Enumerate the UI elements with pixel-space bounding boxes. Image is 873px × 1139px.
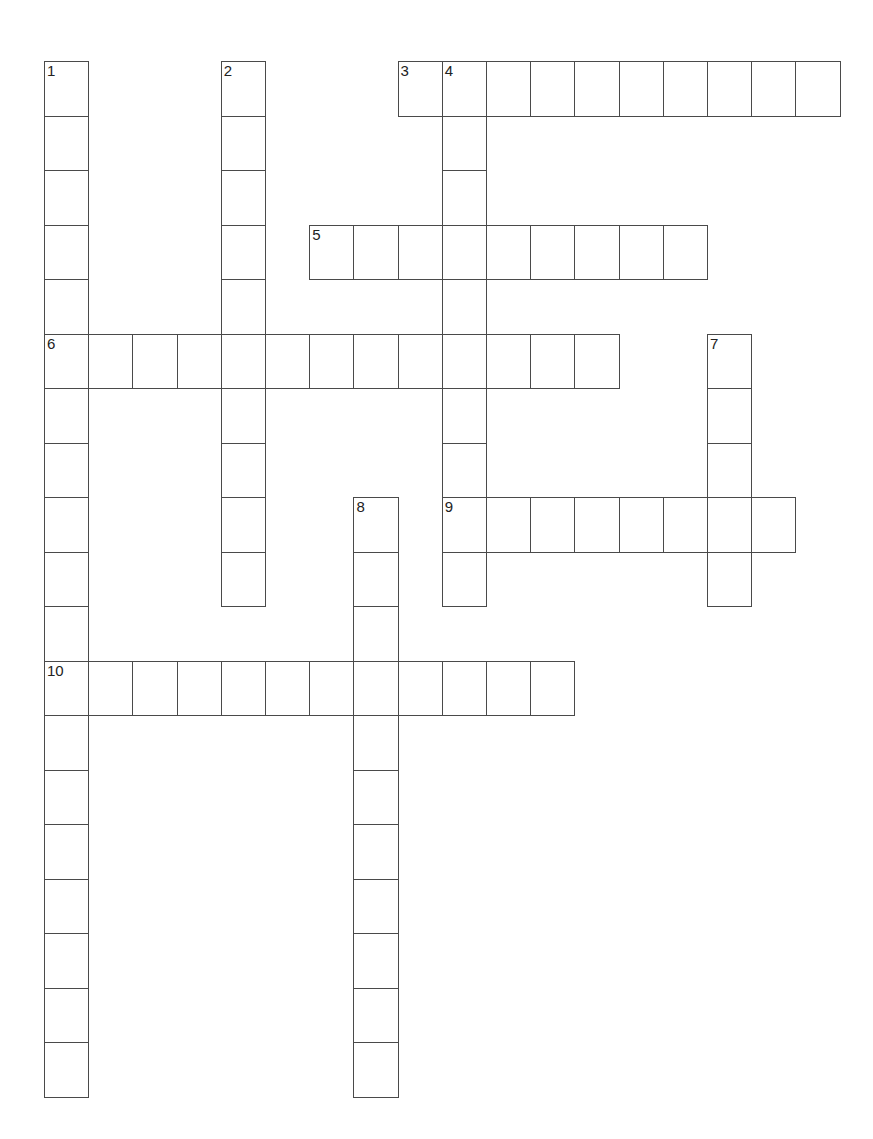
cell-letter-input[interactable] bbox=[45, 934, 88, 988]
cell-letter-input[interactable] bbox=[45, 389, 88, 443]
cell-letter-input[interactable] bbox=[575, 62, 618, 116]
cell-letter-input[interactable] bbox=[620, 226, 663, 280]
cell-letter-input[interactable] bbox=[45, 226, 88, 280]
crossword-cell[interactable] bbox=[574, 225, 619, 281]
crossword-cell[interactable] bbox=[442, 552, 487, 608]
crossword-cell[interactable] bbox=[619, 225, 664, 281]
crossword-cell[interactable] bbox=[353, 334, 398, 390]
crossword-cell[interactable] bbox=[442, 661, 487, 717]
cell-letter-input[interactable] bbox=[45, 498, 88, 552]
cell-letter-input[interactable] bbox=[178, 335, 221, 389]
crossword-cell[interactable] bbox=[353, 824, 398, 880]
crossword-cell[interactable] bbox=[353, 606, 398, 662]
crossword-cell[interactable]: 8 bbox=[353, 497, 398, 553]
cell-letter-input[interactable] bbox=[45, 1043, 88, 1097]
cell-letter-input[interactable] bbox=[399, 662, 442, 716]
cell-letter-input[interactable] bbox=[45, 553, 88, 607]
crossword-cell[interactable]: 7 bbox=[707, 334, 752, 390]
cell-letter-input[interactable] bbox=[399, 226, 442, 280]
cell-letter-input[interactable] bbox=[443, 444, 486, 498]
crossword-cell[interactable] bbox=[353, 1042, 398, 1098]
crossword-cell[interactable] bbox=[221, 279, 266, 335]
cell-letter-input[interactable] bbox=[45, 62, 88, 116]
crossword-cell[interactable] bbox=[619, 61, 664, 117]
crossword-cell[interactable] bbox=[619, 497, 664, 553]
crossword-cell[interactable] bbox=[44, 225, 89, 281]
cell-letter-input[interactable] bbox=[487, 498, 530, 552]
crossword-cell[interactable] bbox=[44, 1042, 89, 1098]
crossword-cell[interactable]: 3 bbox=[398, 61, 443, 117]
crossword-cell[interactable] bbox=[221, 552, 266, 608]
cell-letter-input[interactable] bbox=[222, 498, 265, 552]
cell-letter-input[interactable] bbox=[443, 553, 486, 607]
crossword-cell[interactable] bbox=[707, 552, 752, 608]
cell-letter-input[interactable] bbox=[575, 498, 618, 552]
cell-letter-input[interactable] bbox=[45, 607, 88, 661]
cell-letter-input[interactable] bbox=[487, 62, 530, 116]
cell-letter-input[interactable] bbox=[354, 1043, 397, 1097]
crossword-cell[interactable] bbox=[44, 824, 89, 880]
cell-letter-input[interactable] bbox=[399, 335, 442, 389]
cell-letter-input[interactable] bbox=[664, 498, 707, 552]
cell-letter-input[interactable] bbox=[575, 226, 618, 280]
cell-letter-input[interactable] bbox=[133, 335, 176, 389]
cell-letter-input[interactable] bbox=[222, 553, 265, 607]
cell-letter-input[interactable] bbox=[354, 989, 397, 1043]
crossword-cell[interactable] bbox=[795, 61, 840, 117]
crossword-cell[interactable]: 6 bbox=[44, 334, 89, 390]
crossword-cell[interactable] bbox=[530, 497, 575, 553]
cell-letter-input[interactable] bbox=[708, 62, 751, 116]
cell-letter-input[interactable] bbox=[443, 662, 486, 716]
crossword-cell[interactable] bbox=[44, 988, 89, 1044]
crossword-cell[interactable] bbox=[707, 443, 752, 499]
crossword-cell[interactable] bbox=[177, 334, 222, 390]
cell-letter-input[interactable] bbox=[45, 771, 88, 825]
crossword-cell[interactable] bbox=[663, 225, 708, 281]
crossword-cell[interactable] bbox=[398, 225, 443, 281]
crossword-cell[interactable] bbox=[44, 443, 89, 499]
crossword-cell[interactable] bbox=[530, 61, 575, 117]
crossword-cell[interactable] bbox=[221, 661, 266, 717]
cell-letter-input[interactable] bbox=[310, 335, 353, 389]
cell-letter-input[interactable] bbox=[45, 989, 88, 1043]
crossword-cell[interactable] bbox=[88, 334, 133, 390]
crossword-cell[interactable] bbox=[44, 497, 89, 553]
cell-letter-input[interactable] bbox=[796, 62, 839, 116]
cell-letter-input[interactable] bbox=[222, 62, 265, 116]
cell-letter-input[interactable] bbox=[531, 498, 574, 552]
cell-letter-input[interactable] bbox=[266, 662, 309, 716]
crossword-cell[interactable] bbox=[309, 334, 354, 390]
crossword-cell[interactable] bbox=[353, 552, 398, 608]
crossword-cell[interactable] bbox=[221, 225, 266, 281]
crossword-cell[interactable] bbox=[751, 61, 796, 117]
crossword-cell[interactable] bbox=[309, 661, 354, 717]
crossword-cell[interactable] bbox=[132, 334, 177, 390]
cell-letter-input[interactable] bbox=[443, 389, 486, 443]
cell-letter-input[interactable] bbox=[531, 62, 574, 116]
cell-letter-input[interactable] bbox=[45, 880, 88, 934]
cell-letter-input[interactable] bbox=[752, 498, 795, 552]
crossword-cell[interactable] bbox=[265, 661, 310, 717]
cell-letter-input[interactable] bbox=[752, 62, 795, 116]
crossword-cell[interactable] bbox=[442, 170, 487, 226]
cell-letter-input[interactable] bbox=[620, 62, 663, 116]
crossword-cell[interactable] bbox=[353, 988, 398, 1044]
cell-letter-input[interactable] bbox=[443, 226, 486, 280]
crossword-cell[interactable] bbox=[486, 661, 531, 717]
cell-letter-input[interactable] bbox=[354, 226, 397, 280]
crossword-cell[interactable] bbox=[486, 497, 531, 553]
crossword-cell[interactable] bbox=[221, 334, 266, 390]
crossword-cell[interactable] bbox=[442, 334, 487, 390]
crossword-cell[interactable] bbox=[44, 879, 89, 935]
cell-letter-input[interactable] bbox=[222, 226, 265, 280]
crossword-cell[interactable] bbox=[44, 552, 89, 608]
cell-letter-input[interactable] bbox=[222, 171, 265, 225]
crossword-cell[interactable] bbox=[353, 933, 398, 989]
cell-letter-input[interactable] bbox=[664, 226, 707, 280]
cell-letter-input[interactable] bbox=[708, 553, 751, 607]
crossword-cell[interactable]: 4 bbox=[442, 61, 487, 117]
crossword-cell[interactable] bbox=[442, 388, 487, 444]
crossword-cell[interactable]: 2 bbox=[221, 61, 266, 117]
cell-letter-input[interactable] bbox=[354, 825, 397, 879]
crossword-cell[interactable] bbox=[44, 770, 89, 826]
